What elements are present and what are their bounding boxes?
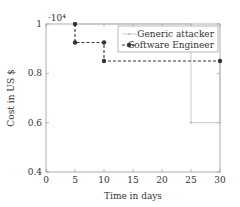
y-tick-label: 0.8 — [28, 68, 43, 78]
x-tick-label: 0 — [43, 175, 49, 185]
legend-marker — [128, 33, 130, 35]
data-point-marker — [102, 40, 106, 44]
x-tick-label: 15 — [127, 175, 139, 185]
data-point-marker — [73, 40, 77, 44]
data-point-marker — [102, 59, 106, 63]
legend-label: Generic attacker — [137, 29, 215, 39]
x-tick-label: 30 — [214, 175, 226, 185]
x-tick-label: 20 — [156, 175, 168, 185]
x-axis-label: Time in days — [104, 191, 162, 201]
y-tick-label: 0.6 — [28, 118, 43, 128]
data-point-marker — [190, 122, 192, 124]
y-tick-label: 1 — [36, 19, 42, 29]
x-tick-label: 10 — [98, 175, 110, 185]
x-tick-label: 25 — [185, 175, 197, 185]
legend-label: Software Engineer — [128, 40, 215, 50]
data-point-marker — [218, 59, 222, 63]
y-axis-multiplier: ·10⁴ — [48, 13, 66, 23]
cost-over-time-chart: 0510152025300.40.60.81·10⁴Time in daysCo… — [0, 0, 240, 207]
y-tick-label: 0.4 — [28, 167, 43, 177]
y-axis-label: Cost in US $ — [6, 69, 16, 126]
data-point-marker — [103, 23, 105, 25]
x-tick-label: 5 — [72, 175, 78, 185]
data-point-marker — [219, 122, 221, 124]
data-point-marker — [190, 23, 192, 25]
data-point-marker — [73, 22, 77, 26]
